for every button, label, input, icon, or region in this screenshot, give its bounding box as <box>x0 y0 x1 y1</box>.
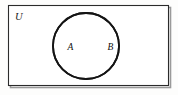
venn-diagram-figure: U A B <box>0 0 178 95</box>
universe-set-rect <box>9 6 169 86</box>
set-a-label: A <box>67 42 74 52</box>
venn-diagram-canvas: U A B <box>0 0 178 95</box>
set-b-label: B <box>108 42 114 52</box>
